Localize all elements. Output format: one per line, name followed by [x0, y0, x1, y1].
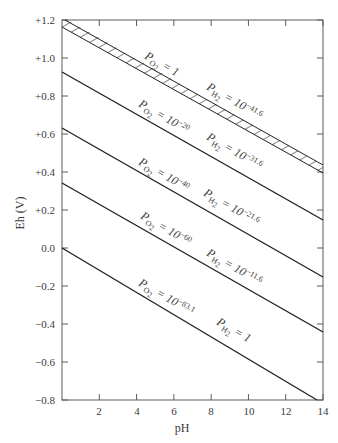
x-tick-label: 8	[208, 405, 214, 417]
y-tick-label: +0.4	[35, 166, 55, 178]
curve-o2-1e-83	[62, 248, 317, 400]
plot-frame	[62, 20, 323, 400]
y-tick-label: 0.0	[41, 242, 55, 254]
x-tick-label: 6	[171, 405, 177, 417]
y-tick-label: −0.2	[35, 280, 55, 292]
curve-label-o2-1e-40: PO2 = 10−40	[134, 154, 192, 198]
eh-ph-chart: 2 4 6 8 10 12 14 +1.2 +1.0 +0.8 +0.6 +0.…	[0, 0, 338, 443]
y-tick-label: +0.8	[35, 90, 55, 102]
y-tick-label: −0.8	[35, 394, 55, 406]
curve-label-o2-1e-83: PO2 = 10−83.1	[134, 275, 197, 322]
y-axis-title: Eh (V)	[13, 197, 27, 230]
x-tick-label: 10	[244, 405, 256, 417]
x-tick-label: 2	[96, 405, 102, 417]
y-tick-label: +1.0	[35, 52, 55, 64]
x-ticks	[99, 20, 323, 400]
y-tick-label: −0.4	[35, 318, 55, 330]
x-tick-label: 4	[134, 405, 140, 417]
x-tick-labels: 2 4 6 8 10 12 14	[96, 405, 329, 417]
y-ticks	[62, 20, 323, 400]
y-tick-label: −0.6	[35, 356, 55, 368]
curve-label-h2-1e-21-6: PH2 = 10−21.6	[199, 185, 262, 232]
y-tick-label: +1.2	[35, 14, 55, 26]
curve-label-h2-1: PH2 = 1	[212, 314, 254, 349]
x-tick-label: 12	[281, 405, 292, 417]
x-tick-label: 14	[318, 405, 330, 417]
y-tick-labels: +1.2 +1.0 +0.8 +0.6 +0.4 +0.2 0.0 −0.2 −…	[35, 14, 55, 406]
x-axis-title: pH	[175, 421, 190, 435]
y-tick-label: +0.2	[35, 204, 55, 216]
y-tick-label: +0.6	[35, 128, 55, 140]
